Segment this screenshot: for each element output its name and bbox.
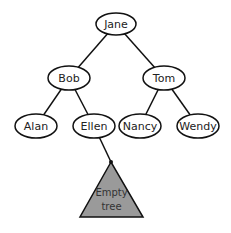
node-label: Nancy xyxy=(123,120,158,133)
node-alan: Alan xyxy=(15,114,57,138)
empty-tree-label-line2: tree xyxy=(101,201,121,212)
node-label: Tom xyxy=(152,72,175,85)
node-jane: Jane xyxy=(96,13,136,35)
node-wendy: Wendy xyxy=(177,114,219,138)
empty-tree-apex-dot xyxy=(109,160,113,164)
node-ellen: Ellen xyxy=(73,114,115,138)
tree-edges xyxy=(36,24,198,162)
node-label: Jane xyxy=(103,18,128,31)
node-nancy: Nancy xyxy=(119,114,161,138)
node-label: Alan xyxy=(24,120,48,133)
empty-subtree: Empty tree xyxy=(80,160,143,217)
empty-tree-label-line1: Empty xyxy=(95,187,127,198)
node-tom: Tom xyxy=(143,66,185,90)
tree-nodes: JaneBobTomAlanEllenNancyWendy xyxy=(15,13,219,138)
node-label: Bob xyxy=(58,72,79,85)
node-label: Ellen xyxy=(81,120,108,133)
node-label: Wendy xyxy=(179,120,217,133)
node-bob: Bob xyxy=(48,66,90,90)
binary-tree-diagram: Empty tree JaneBobTomAlanEllenNancyWendy xyxy=(0,0,231,233)
